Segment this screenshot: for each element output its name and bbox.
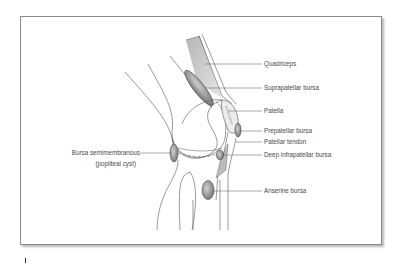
label-popliteal-cyst: (popliteal cyst) [95, 161, 136, 167]
label-deep-infrapatellar-bursa: Deep infrapatellar bursa [264, 152, 331, 158]
label-patellar-tendon: Patellar tendon [264, 139, 306, 145]
label-patella: Patella [264, 108, 283, 114]
label-bursa-semimembranous: Bursa semimembranous [72, 150, 140, 156]
label-suprapatellar-bursa: Suprapatellar bursa [264, 85, 319, 91]
popliteal-cyst-shape [170, 144, 178, 162]
label-quadriceps: Quadriceps [264, 61, 296, 67]
anserine-bursa-shape [202, 181, 214, 200]
label-prepatellar-bursa: Prepatellar bursa [264, 128, 312, 134]
knee-diagram [0, 0, 403, 270]
panel-marker [25, 258, 26, 263]
label-anserine-bursa: Anserine bursa [264, 188, 306, 194]
prepatellar-bursa-shape [235, 123, 241, 137]
